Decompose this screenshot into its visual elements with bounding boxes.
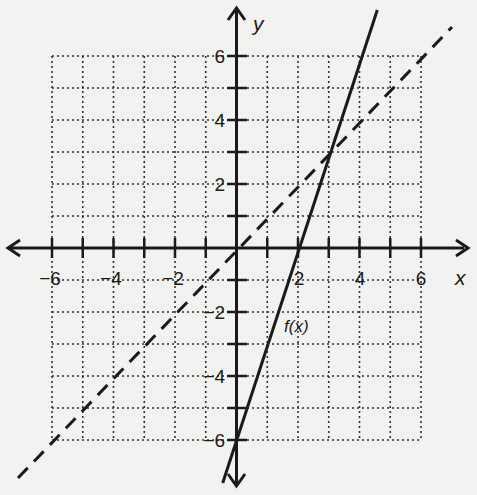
x-tick-label: −4 (100, 268, 122, 289)
y-tick-label: −6 (203, 430, 225, 451)
x-tick-label: −2 (162, 268, 184, 289)
x-tick-label: 6 (416, 268, 427, 289)
coordinate-plane: −6 −4 −2 2 4 6 6 4 2 −2 −4 −6 y x f(x) (0, 0, 477, 495)
function-label: f(x) (284, 317, 309, 336)
y-tick-label: 6 (214, 46, 225, 67)
y-tick-label: 2 (214, 174, 225, 195)
x-axis-label: x (454, 266, 467, 289)
y-tick-label: 4 (214, 110, 225, 131)
y-tick-label: −2 (203, 302, 225, 323)
y-axis-label: y (251, 12, 265, 35)
x-tick-label: −6 (39, 268, 61, 289)
x-tick-label: 4 (355, 268, 366, 289)
x-tick-labels: −6 −4 −2 2 4 6 (39, 268, 426, 289)
y-tick-label: −4 (203, 366, 225, 387)
x-tick-label: 2 (294, 268, 305, 289)
